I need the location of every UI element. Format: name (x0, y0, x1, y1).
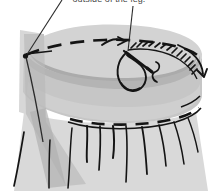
sewing-diagram-figure: outside of the leg. (0, 0, 218, 191)
leader-endpoint-dot (23, 53, 28, 58)
illustration-canvas (0, 0, 218, 191)
